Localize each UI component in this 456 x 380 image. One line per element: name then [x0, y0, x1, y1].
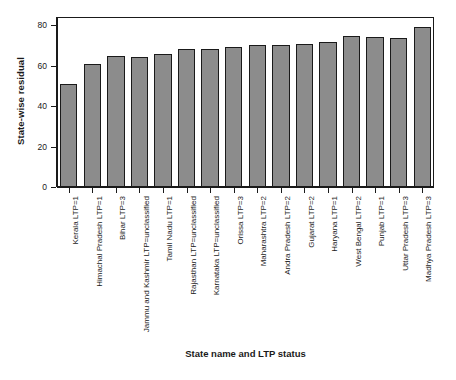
- x-tick-mark: [234, 188, 235, 193]
- x-tick-label: Himachal Pradesh LTP=1: [96, 196, 104, 287]
- bar: [154, 54, 171, 187]
- bar: [343, 36, 360, 187]
- bar: [107, 56, 124, 187]
- x-axis-title: State name and LTP status: [57, 348, 434, 359]
- bar: [84, 64, 101, 187]
- x-tick-mark: [210, 188, 211, 193]
- x-tick-label: Rajasthan LTP=unclassified: [190, 196, 198, 295]
- y-tick-label: 80: [21, 21, 47, 30]
- bars-group: [57, 17, 434, 187]
- x-tick-mark: [399, 188, 400, 193]
- x-tick-mark: [375, 188, 376, 193]
- x-tick-label: West Bengal LTP=2: [355, 196, 363, 267]
- bar: [225, 47, 242, 187]
- x-tick-mark: [304, 188, 305, 193]
- x-tick-mark: [187, 188, 188, 193]
- x-tick-label: Karnataka LTP=unclassified: [213, 196, 221, 295]
- x-tick-mark: [422, 188, 423, 193]
- bar: [60, 84, 77, 187]
- bar: [296, 44, 313, 187]
- bar: [249, 45, 266, 187]
- bar: [131, 57, 148, 187]
- x-tick-label: Madhya Pradesh LTP=3: [425, 196, 433, 282]
- x-tick-mark: [139, 188, 140, 193]
- x-tick-mark: [352, 188, 353, 193]
- x-tick-label: Gujarat LTP=2: [308, 196, 316, 248]
- x-tick-mark: [328, 188, 329, 193]
- bar: [272, 45, 289, 187]
- x-tick-label: Bihar LTP=3: [119, 196, 127, 240]
- x-tick-mark: [281, 188, 282, 193]
- x-tick-label: Maharashtra LTP=2: [260, 196, 268, 266]
- x-tick-mark: [257, 188, 258, 193]
- x-tick-label: Kerala LTP=1: [72, 196, 80, 245]
- x-tick-label: Uttar Pradesh LTP=3: [402, 196, 410, 271]
- x-tick-mark: [92, 188, 93, 193]
- x-tick-mark: [163, 188, 164, 193]
- x-tick-label: Tamil Nadu LTP=1: [166, 196, 174, 261]
- x-tick-label: Andra Pradesh LTP=2: [284, 196, 292, 275]
- x-axis-line: [57, 187, 434, 188]
- bar: [414, 27, 431, 187]
- y-tick-mark: [51, 187, 56, 188]
- bar: [366, 37, 383, 187]
- bar: [390, 38, 407, 187]
- x-tick-label: Punjab LTP=1: [378, 196, 386, 246]
- y-tick-label: 0: [21, 183, 47, 192]
- y-tick-label: 20: [21, 142, 47, 151]
- y-tick-mark: [51, 25, 56, 26]
- x-tick-mark: [69, 188, 70, 193]
- bar: [201, 49, 218, 187]
- y-tick-mark: [51, 106, 56, 107]
- bar: [319, 42, 336, 187]
- y-tick-mark: [51, 66, 56, 67]
- x-tick-label: Jammu and Kashmir LTP=unclassified: [143, 196, 151, 332]
- y-tick-mark: [51, 147, 56, 148]
- x-tick-mark: [116, 188, 117, 193]
- bar-chart: State-wise residual 020406080 Kerala LTP…: [0, 0, 456, 380]
- y-tick-label: 40: [21, 102, 47, 111]
- bar: [178, 49, 195, 187]
- y-tick-label: 60: [21, 61, 47, 70]
- x-tick-label: Orissa LTP=3: [237, 196, 245, 245]
- x-tick-label: Haryana LTP=1: [331, 196, 339, 252]
